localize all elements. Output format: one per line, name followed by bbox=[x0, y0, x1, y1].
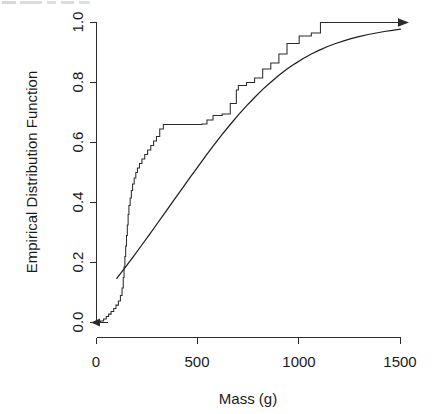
ecdf-plot-svg: 1.0 0.8 0.6 0.4 0.2 0.0 Empirical Distri… bbox=[0, 0, 434, 414]
ecdf-step-curve bbox=[98, 23, 401, 323]
x-tick-label-500: 500 bbox=[184, 353, 209, 370]
x-axis: 0 500 1000 1500 Mass (g) bbox=[92, 338, 417, 408]
plot-data-area bbox=[91, 18, 409, 326]
x-tick-label-1500: 1500 bbox=[383, 353, 416, 370]
x-tick-label-1000: 1000 bbox=[282, 353, 315, 370]
y-tick-label-0.2: 0.2 bbox=[69, 252, 86, 273]
y-tick-label-0.0: 0.0 bbox=[69, 312, 86, 333]
y-tick-label-0.4: 0.4 bbox=[69, 192, 86, 213]
x-axis-title: Mass (g) bbox=[219, 390, 277, 407]
chart-figure: 1.0 0.8 0.6 0.4 0.2 0.0 Empirical Distri… bbox=[0, 0, 434, 414]
y-tick-label-0.8: 0.8 bbox=[69, 72, 86, 93]
y-tick-label-0.6: 0.6 bbox=[69, 132, 86, 153]
x-tick-label-0: 0 bbox=[92, 353, 100, 370]
fitted-model-curve bbox=[117, 29, 401, 278]
y-axis-title: Empirical Distribution Function bbox=[23, 71, 40, 274]
y-axis: 1.0 0.8 0.6 0.4 0.2 0.0 Empirical Distri… bbox=[23, 12, 97, 333]
right-arrow-annotation bbox=[398, 18, 409, 26]
left-arrow-annotation bbox=[91, 319, 108, 327]
y-tick-label-1.0: 1.0 bbox=[69, 12, 86, 33]
clipped-header-artifact bbox=[2, 1, 90, 4]
